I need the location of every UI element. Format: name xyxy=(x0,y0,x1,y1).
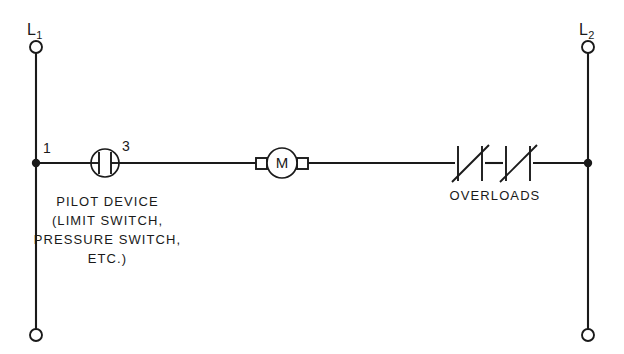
overload-contact-1[interactable] xyxy=(452,145,489,182)
right-top-terminal-circle[interactable] xyxy=(582,41,594,53)
motor-letter-M: M xyxy=(276,154,289,171)
right-rail-label-letter: L xyxy=(579,21,588,38)
pilot-caption-line-3: PRESSURE SWITCH, xyxy=(20,230,195,249)
terminal-number-3: 3 xyxy=(122,139,130,153)
overloads-caption: OVERLOADS xyxy=(435,186,555,205)
pilot-caption-line-1: PILOT DEVICE xyxy=(20,192,195,211)
left-rail-label-subscript: 1 xyxy=(36,29,42,41)
pilot-device-symbol[interactable] xyxy=(91,149,119,177)
motor-terminal-box-left xyxy=(256,158,267,169)
pilot-caption-line-2: (LIMIT SWITCH, xyxy=(20,211,195,230)
left-top-terminal-circle[interactable] xyxy=(30,41,42,53)
motor-terminal-box-right xyxy=(297,158,308,169)
pilot-device-caption: PILOT DEVICE (LIMIT SWITCH, PRESSURE SWI… xyxy=(20,192,195,268)
left-rail-label: L1 xyxy=(27,22,42,41)
ladder-diagram-svg: M xyxy=(0,0,624,354)
overloads-label: OVERLOADS xyxy=(435,186,555,205)
left-bottom-terminal-circle[interactable] xyxy=(30,329,42,341)
overload-contact-2[interactable] xyxy=(500,145,537,182)
right-rail-label: L2 xyxy=(579,22,594,41)
right-rail-label-subscript: 2 xyxy=(588,29,594,41)
pilot-caption-line-4: ETC.) xyxy=(20,249,195,268)
right-bottom-terminal-circle[interactable] xyxy=(582,329,594,341)
terminal-number-1: 1 xyxy=(43,141,51,155)
left-rail-label-letter: L xyxy=(27,21,36,38)
left-rail-group xyxy=(30,41,42,341)
right-rail-group xyxy=(582,41,594,341)
motor-symbol[interactable]: M xyxy=(256,148,308,178)
schematic-canvas: M L1 L2 1 3 PILOT DEVICE (LIMIT SWITCH, … xyxy=(0,0,624,354)
